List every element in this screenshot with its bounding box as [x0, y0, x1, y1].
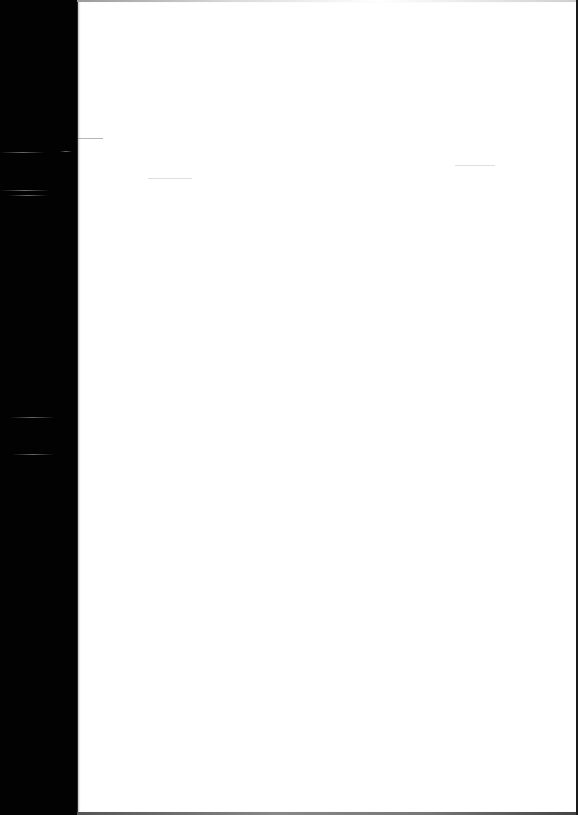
blank-page [77, 1, 578, 813]
scan-background [0, 0, 78, 815]
paper-top-edge [77, 0, 578, 2]
scan-artifact [455, 165, 495, 166]
scanner-streak [8, 195, 48, 196]
scanner-streak [0, 152, 45, 153]
scanner-streak [10, 417, 55, 418]
scan-artifact [78, 138, 103, 139]
scan-artifact [148, 178, 192, 179]
scanner-streak [0, 190, 50, 191]
scanner-streak [12, 454, 54, 455]
scanner-streak [60, 151, 72, 152]
